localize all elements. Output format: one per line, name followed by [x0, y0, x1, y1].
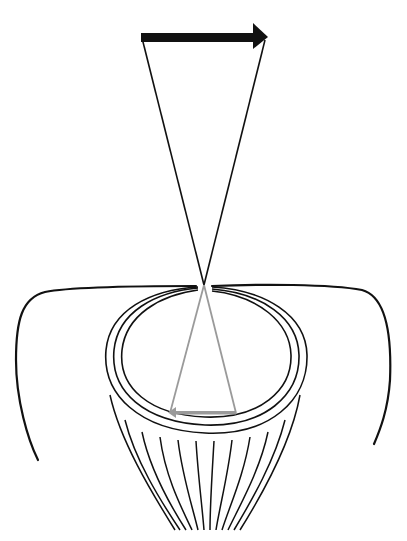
image-rays — [170, 285, 236, 413]
eye-diagram — [0, 0, 407, 541]
eyelid-outline — [16, 285, 390, 460]
optic-nerve-fibers — [110, 395, 300, 530]
object-arrow — [141, 23, 268, 49]
object-rays — [142, 38, 265, 285]
